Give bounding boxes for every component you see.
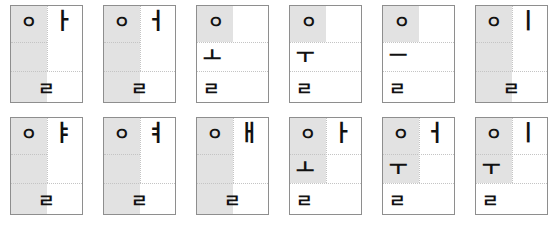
guide-line-horizontal-lower <box>11 183 82 184</box>
syllable-cell-r2c4: ㅇㅏㅗㄹ <box>279 112 372 224</box>
syllable-block: ㅇㅣㄹ <box>475 5 548 103</box>
guide-line-horizontal-upper <box>476 42 512 43</box>
vowel-glyph-vertical: ㅓ <box>418 122 452 144</box>
vowel-glyph-horizontal: ㅜ <box>383 158 454 178</box>
syllable-block: ㅇㅑㄹ <box>10 117 83 215</box>
syllable-cell-r1c2: ㅇㅓㄹ <box>93 0 186 112</box>
vowel-glyph: ㅗ <box>197 46 268 66</box>
initial-consonant-glyph: ㅇ <box>197 126 233 143</box>
syllable-block: ㅇㅐㄹ <box>196 117 269 215</box>
syllable-block: ㅇㅏㄹ <box>10 5 83 103</box>
syllable-cell-r2c1: ㅇㅑㄹ <box>0 112 93 224</box>
syllable-block: ㅇㅣㅜㄹ <box>475 117 548 215</box>
guide-line-horizontal-lower <box>11 71 82 72</box>
syllable-cell-r2c2: ㅇㅕㄹ <box>93 112 186 224</box>
vowel-glyph-vertical: ㅣ <box>511 122 545 144</box>
syllable-block: ㅇㅗㄹ <box>196 5 269 103</box>
final-consonant-glyph: ㄹ <box>290 80 361 98</box>
syllable-cell-r1c3: ㅇㅗㄹ <box>186 0 279 112</box>
vowel-glyph: ㅐ <box>232 122 266 144</box>
syllable-block: ㅇㅕㄹ <box>103 117 176 215</box>
initial-consonant-glyph: ㅇ <box>199 14 233 31</box>
vowel-glyph-vertical: ㅏ <box>325 122 359 144</box>
final-consonant-glyph: ㄹ <box>290 192 361 210</box>
vowel-glyph: ㅜ <box>290 46 361 66</box>
guide-line-horizontal-lower <box>197 71 268 72</box>
vowel-glyph: ㅣ <box>511 10 545 32</box>
final-consonant-glyph: ㄹ <box>383 192 454 210</box>
guide-line-horizontal-lower <box>197 183 268 184</box>
guide-line-horizontal-lower <box>476 183 547 184</box>
syllable-cell-r1c4: ㅇㅜㄹ <box>279 0 372 112</box>
initial-consonant-glyph: ㅇ <box>104 14 140 31</box>
guide-line-horizontal-lower <box>290 183 361 184</box>
syllable-block: ㅇㅓㅜㄹ <box>382 117 455 215</box>
syllable-cell-r1c1: ㅇㅏㄹ <box>0 0 93 112</box>
initial-consonant-glyph: ㅇ <box>11 126 47 143</box>
syllable-block: ㅇㅓㄹ <box>103 5 176 103</box>
guide-line-horizontal-lower <box>383 183 454 184</box>
vowel-glyph: ㅕ <box>139 122 173 144</box>
syllable-block: ㅇㅏㅗㄹ <box>289 117 362 215</box>
guide-line-horizontal-lower <box>383 71 454 72</box>
guide-line-horizontal-upper <box>104 154 140 155</box>
final-consonant-glyph: ㄹ <box>197 80 268 98</box>
final-consonant-glyph: ㄹ <box>476 192 547 210</box>
guide-line-horizontal-lower <box>104 183 175 184</box>
guide-line-horizontal-lower <box>104 71 175 72</box>
vowel-glyph-horizontal: ㅗ <box>290 158 361 178</box>
vowel-glyph: ㅑ <box>46 122 80 144</box>
syllable-cell-r1c6: ㅇㅣㄹ <box>465 0 558 112</box>
syllable-cell-r2c5: ㅇㅓㅜㄹ <box>372 112 465 224</box>
syllable-block-grid: ㅇㅏㄹㅇㅓㄹㅇㅗㄹㅇㅜㄹㅇㅡㄹㅇㅣㄹㅇㅑㄹㅇㅕㄹㅇㅐㄹㅇㅏㅗㄹㅇㅓㅜㄹㅇㅣㅜㄹ <box>0 0 558 224</box>
final-consonant-glyph: ㄹ <box>11 80 82 98</box>
initial-consonant-glyph: ㅇ <box>11 14 47 31</box>
vowel-glyph: ㅓ <box>139 10 173 32</box>
vowel-glyph: ㅡ <box>383 46 454 66</box>
syllable-cell-r2c6: ㅇㅣㅜㄹ <box>465 112 558 224</box>
vowel-glyph-horizontal: ㅜ <box>476 158 547 178</box>
initial-consonant-glyph: ㅇ <box>104 126 140 143</box>
guide-line-horizontal-lower <box>290 71 361 72</box>
initial-consonant-glyph: ㅇ <box>383 126 419 143</box>
initial-consonant-glyph: ㅇ <box>290 126 326 143</box>
syllable-cell-r2c3: ㅇㅐㄹ <box>186 112 279 224</box>
guide-line-horizontal-upper <box>11 42 47 43</box>
final-consonant-glyph: ㄹ <box>104 192 175 210</box>
final-consonant-glyph: ㄹ <box>383 80 454 98</box>
final-consonant-glyph: ㄹ <box>11 192 82 210</box>
syllable-block: ㅇㅡㄹ <box>382 5 455 103</box>
initial-consonant-glyph: ㅇ <box>476 14 512 31</box>
final-consonant-glyph: ㄹ <box>197 192 268 210</box>
final-consonant-glyph: ㄹ <box>104 80 175 98</box>
guide-line-horizontal-upper <box>11 154 47 155</box>
guide-line-horizontal-upper <box>197 154 233 155</box>
vowel-glyph: ㅏ <box>46 10 80 32</box>
initial-consonant-glyph: ㅇ <box>292 14 326 31</box>
initial-consonant-glyph: ㅇ <box>385 14 419 31</box>
syllable-cell-r1c5: ㅇㅡㄹ <box>372 0 465 112</box>
syllable-block: ㅇㅜㄹ <box>289 5 362 103</box>
final-consonant-glyph: ㄹ <box>476 80 547 98</box>
initial-consonant-glyph: ㅇ <box>476 126 512 143</box>
guide-line-horizontal-upper <box>104 42 140 43</box>
guide-line-horizontal-lower <box>476 71 547 72</box>
